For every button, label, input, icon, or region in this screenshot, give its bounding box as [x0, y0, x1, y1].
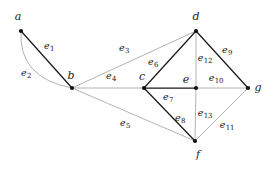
edge-label-base-e13: e — [198, 107, 204, 118]
edge-label-base-e2: e — [21, 67, 27, 78]
vertex-label-b: b — [67, 70, 74, 81]
edge-label-base-e1: e — [44, 40, 50, 51]
edge-label-e4: e4 — [106, 71, 116, 81]
graph-edge-e13 — [195, 88, 196, 141]
edge-label-index-e5: 5 — [126, 122, 130, 130]
edge-label-e12: e12 — [198, 53, 213, 63]
graph-vertex-c — [142, 86, 146, 90]
vertex-label-d: d — [192, 11, 199, 22]
edge-label-base-e3: e — [119, 42, 125, 53]
edge-label-index-e11: 11 — [226, 124, 235, 132]
edge-label-e9: e9 — [222, 45, 232, 55]
graph-vertex-g — [246, 86, 250, 90]
edge-label-e11: e11 — [220, 120, 235, 130]
graph-figure: abcdefge1e2e3e4e5e6e7e8e9e10e11e12e13 — [0, 0, 274, 169]
vertex-label-e: e — [183, 74, 190, 85]
edge-label-base-e12: e — [198, 52, 204, 63]
edge-label-base-e9: e — [222, 44, 228, 55]
graph-vertex-a — [19, 29, 23, 33]
edge-label-index-e3: 3 — [125, 47, 129, 55]
edge-label-base-e10: e — [209, 72, 215, 83]
edge-label-e8: e8 — [175, 113, 185, 123]
edge-label-e10: e10 — [209, 73, 224, 83]
edge-label-e1: e1 — [44, 41, 54, 51]
graph-vertex-d — [194, 29, 198, 33]
vertex-label-a: a — [15, 11, 22, 22]
edge-label-index-e13: 13 — [204, 112, 213, 120]
edge-label-base-e7: e — [163, 91, 169, 102]
edge-label-index-e12: 12 — [204, 57, 213, 65]
vertex-label-g: g — [254, 82, 261, 93]
graph-vertex-b — [70, 86, 74, 90]
edge-label-e5: e5 — [120, 118, 130, 128]
vertex-label-c: c — [139, 71, 145, 82]
edge-label-base-e11: e — [220, 119, 226, 130]
edge-label-index-e6: 6 — [154, 61, 158, 69]
vertex-label-f: f — [196, 149, 200, 160]
edge-label-e7: e7 — [163, 92, 173, 102]
edge-label-index-e10: 10 — [215, 77, 224, 85]
edge-label-index-e4: 4 — [112, 75, 116, 83]
edge-label-index-e1: 1 — [50, 45, 54, 53]
graph-canvas — [0, 0, 274, 169]
edge-label-e6: e6 — [148, 57, 158, 67]
edge-label-base-e4: e — [106, 70, 112, 81]
edge-label-index-e7: 7 — [169, 96, 173, 104]
edge-label-e13: e13 — [198, 108, 213, 118]
edge-label-base-e5: e — [120, 117, 126, 128]
graph-vertex-e — [194, 86, 198, 90]
edge-label-e3: e3 — [119, 43, 129, 53]
edge-label-base-e6: e — [148, 56, 154, 67]
graph-vertex-f — [193, 139, 197, 143]
edge-layer — [21, 31, 248, 141]
edge-label-index-e8: 8 — [181, 117, 185, 125]
edge-label-index-e9: 9 — [228, 49, 232, 57]
edge-label-index-e2: 2 — [27, 72, 31, 80]
graph-edge-e3 — [72, 31, 196, 88]
edge-label-base-e8: e — [175, 112, 181, 123]
edge-label-e2: e2 — [21, 68, 31, 78]
